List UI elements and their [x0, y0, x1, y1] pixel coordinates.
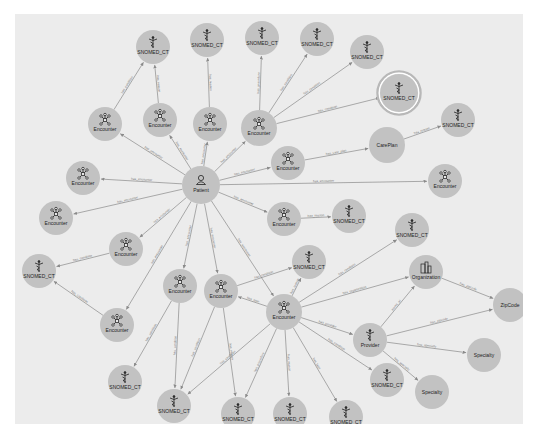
graph-edge[interactable]: works_at: [381, 286, 415, 327]
graph-node-snomed-ct[interactable]: SNOMED_CT: [136, 30, 170, 64]
edge-label: has_encounter: [313, 179, 335, 183]
graph-node-encounter[interactable]: Encounter: [88, 107, 122, 141]
graph-edge[interactable]: has_procedure: [256, 56, 261, 110]
graph-edge[interactable]: has_condition: [56, 253, 109, 266]
graph-edge[interactable]: has_condition: [274, 62, 353, 117]
graph-node-specialty[interactable]: Specialty: [467, 338, 501, 372]
graph-node-encounter[interactable]: Encounter: [109, 232, 143, 266]
node-label: SNOMED_CT: [246, 40, 277, 46]
graph-edge[interactable]: has_reason: [301, 213, 331, 218]
graph-edge[interactable]: has_condition: [134, 301, 172, 367]
graph-node-organization[interactable]: Organization: [409, 255, 443, 289]
graph-node-encounter[interactable]: Encounter: [267, 202, 301, 236]
graph-edge[interactable]: has_condition: [269, 54, 307, 113]
edge-label: has_encounter: [234, 167, 256, 176]
graph-edge[interactable]: has_encounter: [184, 204, 197, 269]
graph-edge[interactable]: has_condition: [114, 62, 143, 109]
node-label: ZipCode: [501, 302, 520, 308]
node-label: Specialty: [422, 389, 443, 395]
edge-label: has_reason: [156, 75, 162, 92]
graph-node-encounter[interactable]: Encounter: [241, 110, 277, 146]
edge-label: has_condition: [72, 254, 92, 263]
node-label: SNOMED_CT: [396, 232, 427, 238]
graph-node-patient[interactable]: Patient: [182, 166, 220, 204]
graph-node-careplan[interactable]: CarePlan: [369, 127, 405, 163]
node-label: Encounter: [210, 293, 233, 299]
graph-edge[interactable]: has_organization: [301, 277, 408, 307]
graph-edge[interactable]: has_condition: [276, 98, 379, 124]
graph-node-encounter[interactable]: Encounter: [143, 103, 177, 137]
graph-node-provider[interactable]: Provider: [353, 323, 387, 357]
graph-edge[interactable]: has_procedure: [245, 328, 276, 397]
graph-node-encounter[interactable]: Encounter: [163, 269, 197, 303]
node-label: Encounter: [149, 122, 172, 128]
edge-label: has_encounter: [175, 141, 190, 162]
graph-edge[interactable]: has_reason: [289, 278, 301, 296]
graph-edge[interactable]: has_provider: [301, 318, 353, 335]
graph-node-encounter[interactable]: Encounter: [271, 146, 305, 180]
edge-label: has_type: [246, 296, 260, 304]
edge-label: has_encounter: [150, 244, 165, 265]
graph-node-snomed-ct[interactable]: SNOMED_CT: [221, 397, 255, 424]
graph-edge[interactable]: has_reason: [404, 126, 441, 139]
graph-edge[interactable]: has_specialty: [387, 342, 466, 352]
graph-node-snomed-ct[interactable]: SNOMED_CT: [332, 199, 366, 233]
graph-edge[interactable]: has_condition: [173, 303, 180, 388]
graph-svg[interactable]: has_encounterhas_encounterhas_encounterh…: [15, 14, 523, 424]
graph-node-snomed-ct[interactable]: SNOMED_CT: [370, 363, 404, 397]
edge-label: has_condition: [120, 75, 134, 94]
graph-node-snomed-ct[interactable]: SNOMED_CT: [350, 35, 384, 69]
edge-label: has_condition: [70, 289, 89, 304]
graph-node-encounter[interactable]: Encounter: [428, 164, 462, 198]
edge-label: has_encounter: [184, 224, 192, 246]
edge-label: has_zipcode: [430, 317, 449, 325]
graph-edge[interactable]: has_encounter: [219, 167, 270, 180]
graph-node-snomed-ct[interactable]: SNOMED_CT: [441, 103, 475, 137]
graph-node-encounter[interactable]: Encounter: [193, 107, 227, 141]
graph-edge[interactable]: has_type: [238, 296, 267, 307]
node-label: Encounter: [273, 221, 296, 227]
node-label: SNOMED_CT: [191, 42, 222, 48]
graph-node-encounter[interactable]: Encounter: [266, 294, 302, 330]
graph-node-encounter[interactable]: Encounter: [100, 308, 134, 342]
node-layer: PatientSNOMED_CTSNOMED_CTSNOMED_CTSNOMED…: [22, 21, 523, 424]
graph-edge[interactable]: has_reason: [208, 58, 213, 107]
graph-edge[interactable]: has_encounter: [219, 192, 268, 212]
graph-edge[interactable]: has_encounter: [200, 142, 207, 166]
graph-edge[interactable]: has_encounter: [215, 141, 246, 171]
graph-edge[interactable]: has_condition: [54, 281, 103, 315]
graph-edge[interactable]: has_condition: [181, 307, 215, 390]
graph-node-snomed-ct[interactable]: SNOMED_CT: [300, 22, 334, 56]
graph-edge[interactable]: has_encounter: [205, 204, 218, 274]
graph-node-encounter[interactable]: Encounter: [66, 161, 100, 195]
graph-node-snomed-ct[interactable]: SNOMED_CT: [395, 213, 429, 247]
graph-node-snomed-ct[interactable]: SNOMED_CT: [245, 21, 279, 55]
graph-node-zipcode[interactable]: ZipCode: [493, 288, 523, 322]
graph-node-snomed-ct[interactable]: SNOMED_CT: [329, 400, 363, 424]
graph-edge[interactable]: has_encounter: [120, 134, 185, 175]
node-label: Encounter: [94, 126, 117, 132]
graph-node-encounter[interactable]: Encounter: [204, 274, 238, 308]
graph-node-snomed-ct[interactable]: SNOMED_CT: [292, 245, 326, 279]
graph-edge[interactable]: has_encounter: [220, 179, 427, 185]
node-label: SNOMED_CT: [351, 54, 382, 60]
graph-canvas[interactable]: has_encounterhas_encounterhas_encounterh…: [15, 14, 523, 424]
graph-edge[interactable]: has_condition: [237, 268, 292, 286]
graph-node-snomed-ct[interactable]: SNOMED_CT: [22, 254, 56, 288]
graph-node-snomed-ct[interactable]: SNOMED_CT: [190, 23, 224, 57]
edge-label: has_care_plan: [326, 148, 348, 156]
graph-node-specialty[interactable]: Specialty: [415, 375, 449, 409]
graph-edge[interactable]: has_zipcode: [386, 309, 492, 336]
graph-node-snomed-ct[interactable]: SNOMED_CT: [378, 72, 421, 115]
graph-node-snomed-ct[interactable]: SNOMED_CT: [108, 365, 142, 399]
graph-node-snomed-ct[interactable]: SNOMED_CT: [273, 397, 307, 424]
graph-edge[interactable]: has_care_plan: [305, 148, 369, 160]
graph-edge[interactable]: has_encounter: [140, 197, 187, 237]
graph-node-encounter[interactable]: Encounter: [39, 201, 73, 235]
graph-node-snomed-ct[interactable]: SNOMED_CT: [157, 389, 191, 423]
graph-edge[interactable]: has_zipcode: [442, 278, 493, 298]
graph-edge[interactable]: has_encounter: [170, 135, 191, 169]
graph-edge[interactable]: has_reason: [155, 65, 162, 103]
graph-edge[interactable]: has_encounter: [101, 177, 182, 184]
graph-edge[interactable]: has_reason: [285, 330, 291, 396]
